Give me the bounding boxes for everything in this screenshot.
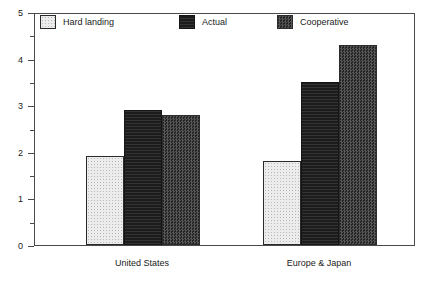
bar-actual xyxy=(301,82,339,245)
y-axis-tick-major xyxy=(28,60,34,61)
y-axis-tick-major xyxy=(28,153,34,154)
bar-cooperative xyxy=(339,45,377,245)
y-axis-tick-label: 4 xyxy=(18,55,23,64)
y-axis-tick-major xyxy=(28,106,34,107)
legend-label-actual: Actual xyxy=(202,18,227,27)
bar-cooperative xyxy=(162,115,200,245)
y-axis-tick-minor xyxy=(30,223,34,224)
y-axis-tick-label: 1 xyxy=(18,195,23,204)
bar-hard-landing xyxy=(86,156,124,245)
y-axis-tick-label: 0 xyxy=(18,242,23,251)
legend-swatch-cooperative-icon xyxy=(277,15,293,29)
y-axis-tick-label: 5 xyxy=(18,9,23,18)
x-axis-category-label: United States xyxy=(115,259,169,268)
y-axis-tick-major xyxy=(28,199,34,200)
y-axis-tick-major xyxy=(28,13,34,14)
legend-item-hard-landing: Hard landing xyxy=(40,14,114,30)
y-axis-tick-label: 2 xyxy=(18,148,23,157)
legend-item-cooperative: Cooperative xyxy=(277,14,349,30)
chart-legend: Hard landing Actual Cooperative xyxy=(40,14,349,30)
legend-label-cooperative: Cooperative xyxy=(300,18,349,27)
y-axis-tick-minor xyxy=(30,176,34,177)
legend-swatch-hard-landing-icon xyxy=(40,15,56,29)
plot-area xyxy=(34,13,415,246)
y-axis-tick-label: 3 xyxy=(18,102,23,111)
x-axis-category-label: Europe & Japan xyxy=(287,259,352,268)
y-axis-tick-minor xyxy=(30,36,34,37)
bar-hard-landing xyxy=(263,161,301,245)
bar-actual xyxy=(124,110,162,245)
bar-chart: 012345 United StatesEurope & Japan Hard … xyxy=(0,0,429,283)
y-axis: 012345 xyxy=(0,0,34,283)
legend-label-hard-landing: Hard landing xyxy=(63,18,114,27)
bars-layer xyxy=(35,14,414,245)
y-axis-tick-minor xyxy=(30,83,34,84)
y-axis-tick-minor xyxy=(30,130,34,131)
y-axis-tick-major xyxy=(28,246,34,247)
legend-swatch-actual-icon xyxy=(179,15,195,29)
legend-item-actual: Actual xyxy=(179,14,227,30)
